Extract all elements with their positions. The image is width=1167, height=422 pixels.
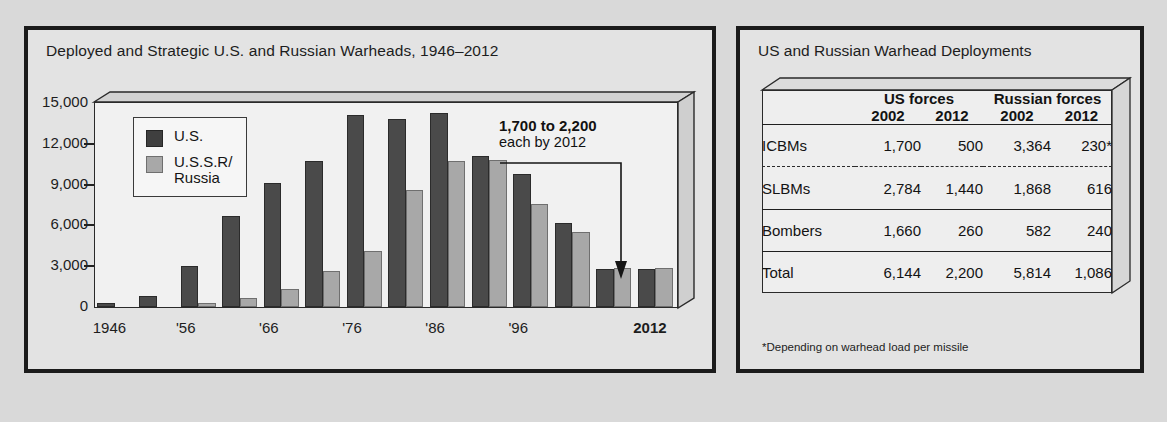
year-header-us-2002: 2002 — [855, 107, 921, 125]
y-axis: 03,0006,0009,00012,00015,000 — [28, 30, 94, 330]
bar-ussrrussia-1986 — [448, 161, 465, 307]
x-tick-label: '76 — [342, 320, 362, 335]
table-cell-value: 1,868 — [983, 167, 1051, 209]
year-header-ru-2012: 2012 — [1051, 107, 1112, 125]
bar-us-1951 — [139, 296, 156, 307]
plot-area: U.S. U.S.S.R/ Russia 1,700 to 2,200 each… — [94, 92, 694, 308]
x-tick-label: '86 — [425, 320, 445, 335]
bar-ussrrussia-1966 — [281, 289, 298, 307]
chart-panel: Deployed and Strategic U.S. and Russian … — [24, 26, 716, 373]
table-row: Total6,1442,2005,8141,086 — [762, 252, 1112, 293]
table-cell-value: 1,700 — [855, 125, 921, 167]
y-tick-mark — [84, 184, 94, 186]
table-row-label: Total — [762, 252, 855, 293]
bar-us-1971 — [305, 161, 322, 307]
group-header-us-forces: US forces — [855, 90, 983, 107]
bar-ussrrussia-1981 — [406, 190, 423, 307]
plot-face: U.S. U.S.S.R/ Russia 1,700 to 2,200 each… — [94, 102, 678, 308]
table-3d-box: US forces Russian forces 2002 2012 2002 … — [762, 78, 1130, 293]
legend-item-us: U.S. — [146, 128, 232, 147]
table-panel: US and Russian Warhead Deployments US fo… — [736, 26, 1144, 373]
y-tick-label: 6,000 — [50, 216, 88, 231]
chart-legend: U.S. U.S.S.R/ Russia — [133, 117, 247, 197]
y-tick-label: 0 — [80, 298, 88, 313]
bar-ussrrussia-1956 — [198, 303, 215, 307]
year-header-us-2012: 2012 — [921, 107, 983, 125]
legend-swatch-us-icon — [146, 130, 163, 147]
table-year-header-row: 2002 2012 2002 2012 — [762, 107, 1112, 125]
legend-swatch-ussr-icon — [146, 156, 163, 173]
table-cell-value: 582 — [983, 209, 1051, 251]
y-tick-label: 9,000 — [50, 176, 88, 191]
table-row: SLBMs2,7841,4401,868616 — [762, 167, 1112, 209]
chart-annotation: 1,700 to 2,200 each by 2012 — [499, 117, 659, 151]
bar-us-1976 — [347, 115, 364, 307]
bar-ussrrussia-1961 — [240, 298, 257, 307]
table-cell-value: 5,814 — [983, 252, 1051, 293]
bar-us-1956 — [181, 266, 198, 307]
infographic-page: Deployed and Strategic U.S. and Russian … — [0, 0, 1167, 422]
x-tick-label: '66 — [259, 320, 279, 335]
table-row-label: ICBMs — [762, 125, 855, 167]
annotation-line-1: 1,700 to 2,200 — [499, 117, 659, 134]
table-group-header-row: US forces Russian forces — [762, 90, 1112, 107]
bar-us-1981 — [388, 119, 405, 307]
table-cell-value: 1,660 — [855, 209, 921, 251]
table-cell-value: 3,364 — [983, 125, 1051, 167]
x-tick-label: '56 — [176, 320, 196, 335]
table-title: US and Russian Warhead Deployments — [758, 42, 1031, 60]
chart-title: Deployed and Strategic U.S. and Russian … — [46, 42, 499, 60]
warhead-deployment-table: US forces Russian forces 2002 2012 2002 … — [762, 90, 1112, 293]
bar-ussrrussia-1976 — [364, 251, 381, 307]
y-tick-mark — [84, 143, 94, 145]
bar-ussrrussia-1971 — [323, 271, 340, 307]
y-tick-label: 15,000 — [42, 94, 88, 109]
table-row-label: Bombers — [762, 209, 855, 251]
x-tick-label: 2012 — [633, 320, 666, 335]
legend-label-us: U.S. — [174, 128, 203, 144]
table-cell-value: 500 — [921, 125, 983, 167]
table-cell-value: 616 — [1051, 167, 1112, 209]
y-tick-label: 3,000 — [50, 257, 88, 272]
y-tick-label: 12,000 — [42, 135, 88, 150]
bar-us-1946 — [97, 303, 114, 307]
legend-item-ussr: U.S.S.R/ Russia — [146, 154, 232, 186]
table-row: Bombers1,660260582240 — [762, 209, 1112, 251]
bar-ussrrussia-2012 — [655, 268, 672, 307]
table-row-label: SLBMs — [762, 167, 855, 209]
bar-us-1966 — [264, 183, 281, 307]
table-footnote: *Depending on warhead load per missile — [762, 341, 969, 353]
table-body: ICBMs1,7005003,364230*SLBMs2,7841,4401,8… — [762, 125, 1112, 294]
y-tick-mark — [84, 224, 94, 226]
bar-us-1961 — [222, 216, 239, 307]
table-cell-value: 1,086 — [1051, 252, 1112, 293]
x-tick-label: '96 — [509, 320, 529, 335]
annotation-line-2: each by 2012 — [499, 134, 659, 151]
x-tick-label: 1946 — [93, 320, 126, 335]
table-row: ICBMs1,7005003,364230* — [762, 125, 1112, 167]
table-cell-value: 1,440 — [921, 167, 983, 209]
legend-label-ussr: U.S.S.R/ Russia — [174, 154, 232, 186]
group-header-blank — [762, 90, 855, 107]
bar-us-1991 — [472, 156, 489, 307]
year-header-blank — [762, 107, 855, 125]
bar-us-1986 — [430, 113, 447, 307]
group-header-russian-forces: Russian forces — [983, 90, 1112, 107]
table-cell-value: 2,200 — [921, 252, 983, 293]
table-cell-value: 6,144 — [855, 252, 921, 293]
table-cell-value: 230* — [1051, 125, 1112, 167]
y-tick-mark — [84, 265, 94, 267]
table-cell-value: 260 — [921, 209, 983, 251]
year-header-ru-2002: 2002 — [983, 107, 1051, 125]
table-cell-value: 240 — [1051, 209, 1112, 251]
table-cell-value: 2,784 — [855, 167, 921, 209]
annotation-arrow-icon — [499, 160, 649, 286]
